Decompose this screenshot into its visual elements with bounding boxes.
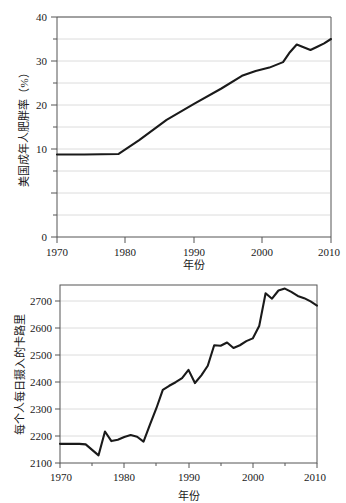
y-tick-label: 2300 [30, 403, 53, 415]
calories-y-tick-labels: 2700 2600 2500 2400 2300 2200 2100 [30, 295, 53, 469]
y-tick-label: 2200 [30, 430, 53, 442]
calories-chart-svg: 2700 2600 2500 2400 2300 2200 2100 1970 … [0, 262, 346, 503]
x-tick-label: 1990 [178, 471, 201, 483]
calories-x-tickmarks [60, 463, 317, 468]
obesity-data-line [57, 39, 331, 155]
obesity-chart-svg: 40 30 20 10 0 1970 1980 1990 2000 2010 美… [0, 0, 346, 262]
obesity-x-tick-labels: 1970 1980 1990 2000 2010 [46, 246, 341, 258]
calories-x-tick-labels: 1970 1980 1990 2000 2010 [50, 471, 327, 483]
y-tick-label: 2500 [30, 349, 53, 361]
x-tick-label: 2010 [318, 246, 341, 258]
calories-y-tickmarks [55, 301, 60, 463]
obesity-y-tick-labels: 40 30 20 10 0 [36, 11, 48, 243]
x-tick-label: 2010 [304, 471, 327, 483]
y-tick-label: 20 [36, 99, 48, 111]
x-tick-label: 2000 [242, 471, 265, 483]
y-tick-label: 2400 [30, 376, 53, 388]
y-tick-label: 0 [42, 231, 48, 243]
chart-daily-calories: 2700 2600 2500 2400 2300 2200 2100 1970 … [0, 262, 346, 503]
calories-data-line [60, 289, 317, 456]
x-tick-label: 1970 [46, 246, 69, 258]
obesity-gridlines [57, 17, 330, 215]
x-tick-label: 1980 [114, 246, 137, 258]
calories-y-axis-title: 每个人每日摄入的卡路里 [13, 314, 26, 435]
y-tick-label: 2700 [30, 295, 53, 307]
chart-obesity-rate: 40 30 20 10 0 1970 1980 1990 2000 2010 美… [0, 0, 346, 262]
y-tick-label: 30 [36, 55, 48, 67]
x-tick-label: 2000 [251, 246, 274, 258]
x-tick-label: 1980 [113, 471, 136, 483]
obesity-y-tickmarks [51, 17, 57, 237]
x-tick-label: 1970 [50, 471, 73, 483]
y-tick-label: 10 [36, 143, 48, 155]
y-tick-label: 40 [36, 11, 48, 23]
calories-x-axis-title: 年份 [178, 489, 200, 502]
y-tick-label: 2600 [30, 322, 53, 334]
x-tick-label: 1990 [183, 246, 206, 258]
calories-gridlines [60, 301, 317, 436]
obesity-x-tickmarks [57, 237, 331, 243]
y-tick-label: 2100 [30, 457, 53, 469]
obesity-y-axis-title: 美国成年人肥胖率（%） [17, 67, 30, 186]
